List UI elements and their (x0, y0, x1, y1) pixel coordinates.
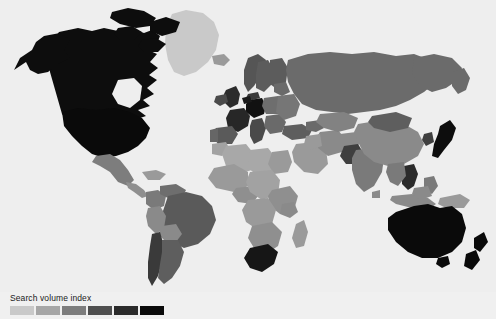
legend-swatch-3 (62, 306, 86, 315)
country-portugal (210, 128, 218, 142)
legend-title: Search volume index (10, 293, 91, 303)
world-map-svg (0, 0, 496, 292)
legend-swatch-6 (140, 306, 164, 315)
world-map (0, 0, 496, 292)
legend-swatch-row (10, 306, 164, 315)
map-legend: Search volume index (0, 292, 496, 319)
world-search-volume-figure: Search volume index (0, 0, 496, 319)
legend-swatch-1 (10, 306, 34, 315)
legend-swatch-4 (88, 306, 112, 315)
legend-swatch-5 (114, 306, 138, 315)
legend-swatch-2 (36, 306, 60, 315)
